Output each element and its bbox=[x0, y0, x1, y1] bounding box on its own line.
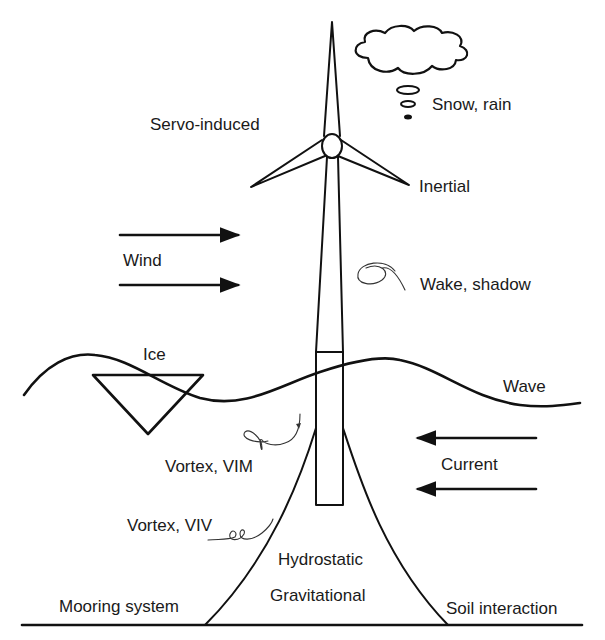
wake-swirl-icon bbox=[358, 263, 405, 290]
label-gravitational: Gravitational bbox=[270, 587, 365, 604]
vortex-swirl-icon bbox=[244, 414, 301, 450]
label-vortex-viv: Vortex, VIV bbox=[127, 517, 212, 534]
load-diagram: Servo-induced Snow, rain Inertial Wind W… bbox=[0, 0, 605, 640]
label-soil-interaction: Soil interaction bbox=[446, 600, 558, 617]
label-inertial: Inertial bbox=[419, 178, 470, 195]
wave-line bbox=[24, 355, 580, 407]
label-snow-rain: Snow, rain bbox=[432, 96, 511, 113]
wind-turbine-icon bbox=[251, 22, 409, 505]
ice-triangle-icon bbox=[93, 375, 203, 434]
vortex-viv-swirl-icon bbox=[208, 519, 273, 540]
label-wave: Wave bbox=[503, 378, 546, 395]
label-hydrostatic: Hydrostatic bbox=[278, 551, 363, 568]
label-current: Current bbox=[441, 456, 498, 473]
label-mooring-system: Mooring system bbox=[59, 598, 179, 615]
label-servo-induced: Servo-induced bbox=[150, 116, 260, 133]
label-ice: Ice bbox=[143, 346, 166, 363]
label-vortex-vim: Vortex, VIM bbox=[165, 458, 253, 475]
label-wind: Wind bbox=[123, 252, 162, 269]
label-wake-shadow: Wake, shadow bbox=[420, 276, 531, 293]
